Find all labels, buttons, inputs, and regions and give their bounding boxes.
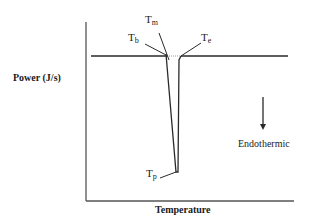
- label-te: Te: [201, 31, 211, 45]
- label-tm: Tm: [145, 13, 158, 27]
- label-tb: Tb: [128, 31, 139, 45]
- endothermic-label: Endothermic: [238, 138, 290, 149]
- tp-leader: [160, 172, 176, 178]
- endotherm-peak: [166, 54, 181, 172]
- x-axis-label: Temperature: [155, 204, 211, 215]
- arrowhead: [260, 124, 266, 130]
- label-tp: Tp: [146, 167, 157, 181]
- te-leader: [181, 43, 201, 56]
- tb-leader: [145, 44, 166, 55]
- y-axis-label: Power (J/s): [13, 72, 61, 83]
- dsc-plot: [0, 0, 310, 223]
